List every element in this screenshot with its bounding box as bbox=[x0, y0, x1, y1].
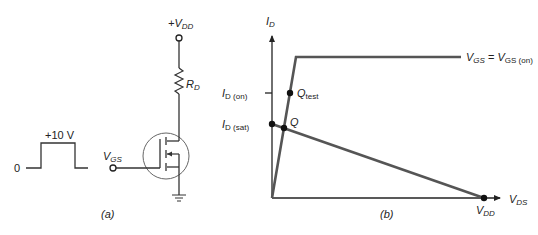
pulse-low-label: 0 bbox=[14, 162, 20, 174]
vdd-label: VDD bbox=[476, 204, 495, 218]
gate-terminal bbox=[110, 165, 116, 171]
id-sat-point bbox=[269, 121, 275, 127]
dc-load-line bbox=[272, 124, 484, 198]
mosfet bbox=[116, 128, 189, 195]
q-point bbox=[281, 125, 287, 131]
ground-icon bbox=[172, 195, 186, 201]
pulse-high-label: +10 V bbox=[45, 129, 75, 141]
caption-b: (b) bbox=[380, 208, 394, 220]
x-axis-label: VDS bbox=[509, 193, 528, 207]
caption-a: (a) bbox=[101, 208, 115, 220]
vdd-point bbox=[481, 195, 487, 201]
y-axis-label: ID bbox=[266, 15, 275, 29]
panel-a: 0 +10 V +VDD RD bbox=[14, 17, 200, 220]
gate-label: VGS bbox=[103, 150, 123, 164]
vgs-on-curve bbox=[272, 57, 461, 198]
id-on-label: ID (on) bbox=[222, 87, 248, 101]
qtest-label: Qtest bbox=[297, 87, 319, 101]
qtest-point bbox=[287, 90, 293, 96]
figure-canvas: 0 +10 V +VDD RD bbox=[0, 0, 538, 235]
resistor-label: RD bbox=[186, 78, 200, 92]
id-sat-label: ID (sat) bbox=[222, 118, 249, 132]
panel-b: ID VDS VGS = VGS (on) ID (on) ID (sat) Q… bbox=[222, 15, 533, 220]
supply-label: +VDD bbox=[168, 17, 194, 31]
supply-terminal bbox=[176, 35, 182, 41]
q-label: Q bbox=[290, 116, 299, 128]
pulse-waveform bbox=[26, 143, 88, 168]
curve-label: VGS = VGS (on) bbox=[466, 51, 533, 65]
resistor-rd bbox=[175, 68, 183, 94]
